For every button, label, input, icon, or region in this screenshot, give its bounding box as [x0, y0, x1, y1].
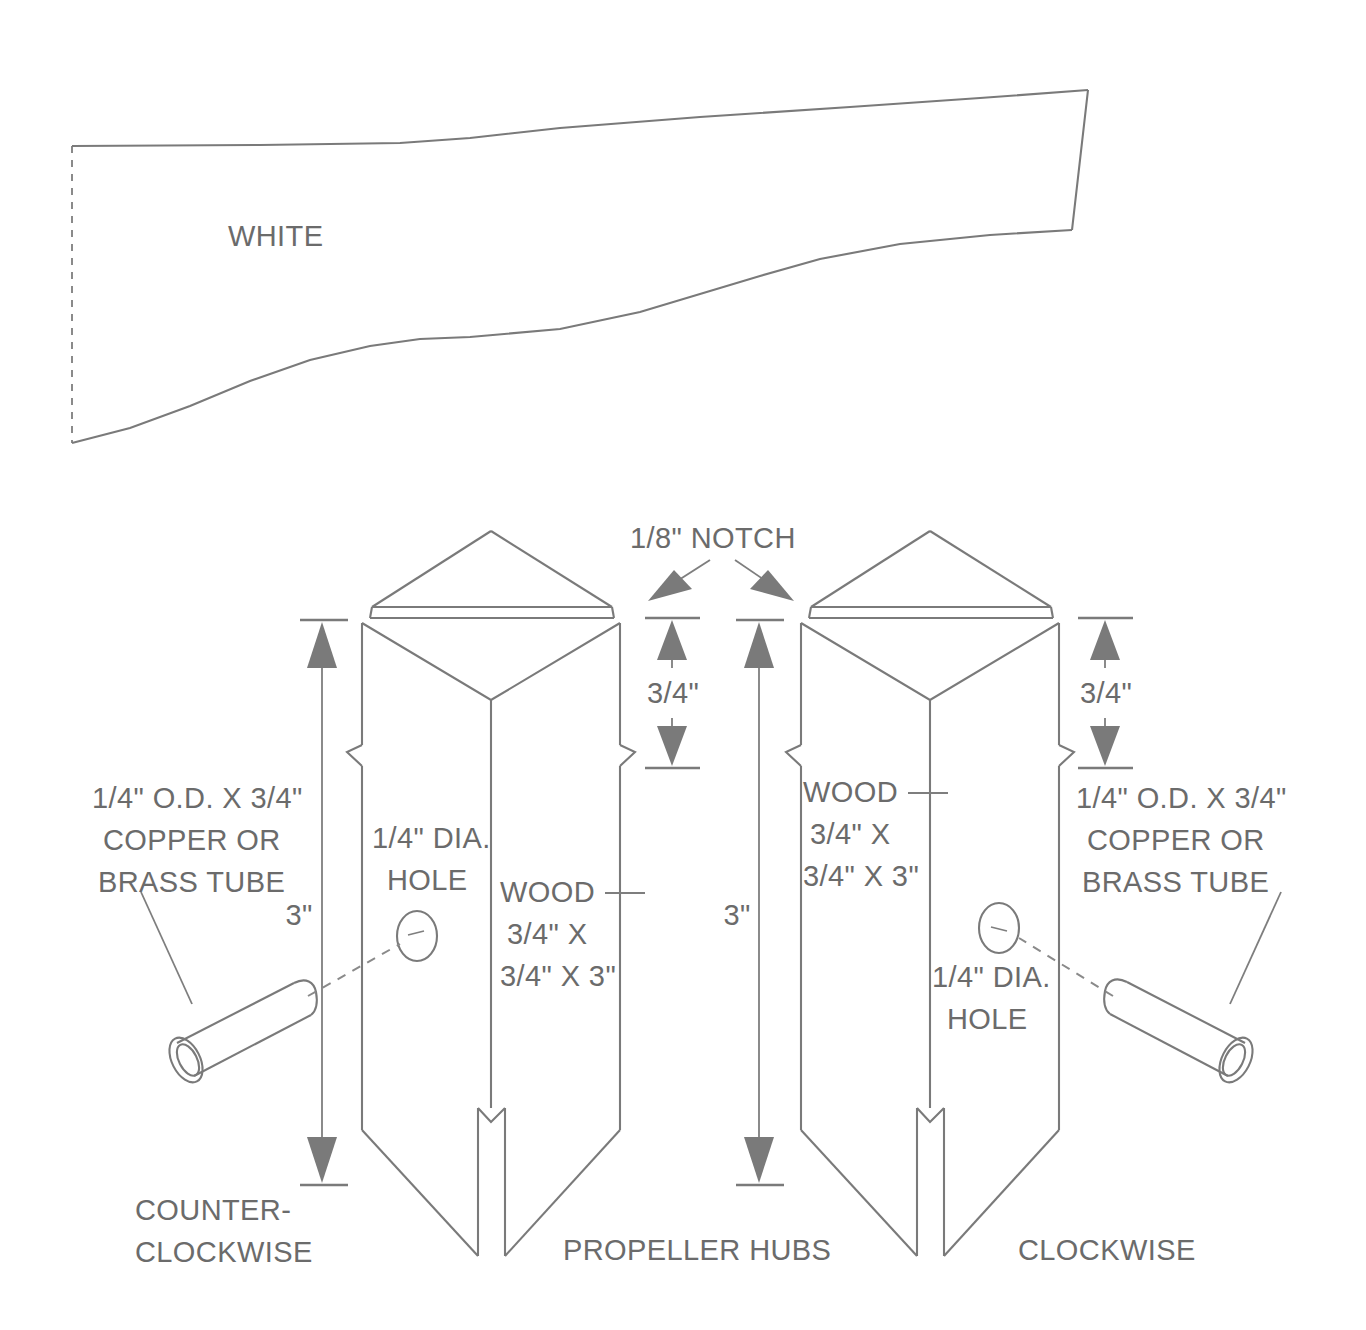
left-dim-arrow-top-icon — [307, 622, 337, 668]
right-notch-arrow-bottom-icon — [1090, 726, 1120, 766]
left-height-dim-label: 3" — [285, 899, 312, 931]
left-tube-label-line3: BRASS TUBE — [98, 866, 285, 898]
bottom-labels-group: COUNTER- CLOCKWISE PROPELLER HUBS CLOCKW… — [135, 1194, 1196, 1268]
right-tube-text-group: 1/4" O.D. X 3/4" COPPER OR BRASS TUBE — [1076, 782, 1287, 898]
right-hub-bottom-slot-notch — [917, 1108, 944, 1122]
right-notch-dimension-group: 3/4" — [1078, 618, 1133, 768]
left-notch-arrow-bottom-icon — [657, 726, 687, 766]
right-tube-leader — [1230, 892, 1281, 1004]
right-hub-right-side-notch — [1059, 745, 1074, 766]
left-hub-hole-ellipse — [397, 911, 437, 961]
blade-label: WHITE — [228, 220, 323, 252]
left-tube-label-line1: 1/4" O.D. X 3/4" — [92, 782, 303, 814]
left-notch-arrow-top-icon — [657, 620, 687, 660]
left-hub-top-v-notch — [362, 623, 620, 700]
left-hub-pyramid-left-face — [372, 531, 491, 607]
right-dim-arrow-top-icon — [744, 622, 774, 668]
right-tube-body-top — [1127, 982, 1245, 1043]
bottom-label-counterclockwise-line2: CLOCKWISE — [135, 1236, 313, 1268]
left-tube-far-cap — [294, 980, 317, 1015]
right-tube-far-cap — [1104, 979, 1127, 1014]
right-wood-label-line3: 3/4" X 3" — [803, 860, 919, 892]
left-hub-bottom-left-slope — [362, 1130, 478, 1256]
left-notch-dim-label: 3/4" — [647, 677, 699, 709]
left-tube-leader — [141, 892, 192, 1004]
right-hub-pyramid-right-face — [930, 531, 1051, 607]
right-hub-rim-cap-right — [1051, 607, 1053, 618]
right-hub-hole-ellipse — [979, 903, 1019, 953]
left-hub-right-side-notch — [620, 745, 635, 766]
right-hole-label-line2: HOLE — [947, 1003, 1028, 1035]
left-wood-label-line2: 3/4" X — [507, 918, 587, 950]
left-wood-label-line3: 3/4" X 3" — [500, 960, 616, 992]
bottom-label-propeller-hubs: PROPELLER HUBS — [563, 1234, 831, 1266]
notch-arrow-left-icon — [648, 570, 692, 601]
diagram-page: WHITE 1/8" NOTCH — [0, 0, 1366, 1330]
left-hub-bottom-slot-notch — [478, 1108, 505, 1122]
right-hub-pyramid-left-face — [811, 531, 930, 607]
right-hub-left-side-notch — [786, 745, 801, 766]
right-tube-outer-ellipse — [1213, 1032, 1260, 1087]
left-hole-label-line2: HOLE — [387, 864, 468, 896]
bottom-label-clockwise: CLOCKWISE — [1018, 1234, 1196, 1266]
left-hub-left-side-notch — [347, 745, 362, 766]
right-hole-label-line1: 1/4" DIA. — [932, 961, 1051, 993]
left-hub-rim-cap-left — [370, 607, 372, 618]
right-hub-top-v-notch — [801, 623, 1059, 700]
technical-drawing: WHITE 1/8" NOTCH — [0, 0, 1366, 1330]
right-height-dimension-group: 3" — [723, 620, 784, 1185]
left-hub-text-group: 1/4" DIA. HOLE WOOD 3/4" X 3/4" X 3" — [372, 822, 645, 992]
notch-callout-group: 1/8" NOTCH — [630, 522, 796, 601]
right-notch-dim-label: 3/4" — [1080, 677, 1132, 709]
right-hub-hole-center-mark — [991, 927, 1007, 931]
notch-label: 1/8" NOTCH — [630, 522, 796, 554]
left-height-dimension-group: 3" — [285, 620, 348, 1185]
right-tube-body-bottom — [1110, 1014, 1228, 1076]
right-hub-group — [786, 531, 1074, 1256]
left-tube-text-group: 1/4" O.D. X 3/4" COPPER OR BRASS TUBE — [92, 782, 303, 898]
blade-upper-edge — [72, 90, 1088, 146]
right-tube-label-line3: BRASS TUBE — [1082, 866, 1269, 898]
left-notch-dimension-group: 3/4" — [645, 618, 700, 768]
blade-tip-edge — [1072, 90, 1088, 230]
left-tube-label-line2: COPPER OR — [103, 824, 281, 856]
right-hub-text-group: WOOD 3/4" X 3/4" X 3" 1/4" DIA. HOLE — [803, 776, 1051, 1035]
blade-outline-group: WHITE — [72, 90, 1088, 443]
left-wood-label-line1: WOOD — [500, 876, 595, 908]
blade-lower-edge — [72, 230, 1072, 443]
left-dim-arrow-bottom-icon — [307, 1137, 337, 1183]
left-hub-hole-center-mark — [408, 931, 424, 935]
left-hub-pyramid-right-face — [491, 531, 612, 607]
left-hole-label-line1: 1/4" DIA. — [372, 822, 491, 854]
right-tube-label-line2: COPPER OR — [1087, 824, 1265, 856]
right-wood-label-line1: WOOD — [803, 776, 898, 808]
right-wood-label-line2: 3/4" X — [810, 818, 890, 850]
right-tube-label-line1: 1/4" O.D. X 3/4" — [1076, 782, 1287, 814]
left-hub-rim-cap-right — [612, 607, 614, 618]
right-hub-rim-cap-left — [809, 607, 811, 618]
left-tube-outer-ellipse — [163, 1032, 210, 1087]
right-height-dim-label: 3" — [723, 899, 750, 931]
right-dim-arrow-bottom-icon — [744, 1137, 774, 1183]
right-notch-arrow-top-icon — [1090, 620, 1120, 660]
bottom-label-counterclockwise-line1: COUNTER- — [135, 1194, 291, 1226]
